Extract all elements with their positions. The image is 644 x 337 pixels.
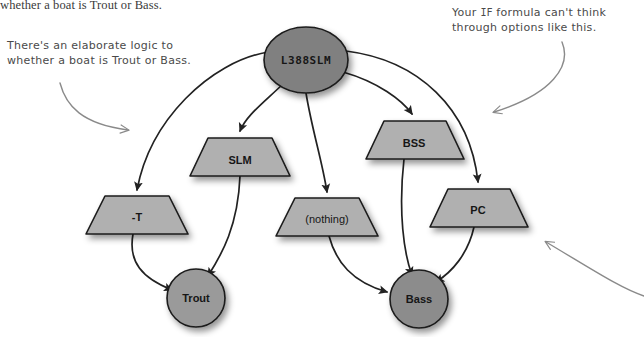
edge-root-to-nothing: [306, 93, 327, 192]
right-annotation-if-keyword: IF: [480, 7, 492, 18]
bottom-right-annotation-arrow: [546, 242, 644, 296]
right-annotation-prefix: Your: [452, 6, 480, 19]
edge-root-to-slm: [240, 84, 283, 131]
annotation-arrow-group: [60, 42, 644, 296]
edge-root-to-bss: [343, 72, 412, 114]
right-annotation-text: Your IF formula can't think through opti…: [452, 5, 606, 35]
left-annotation-line-2: whether a boat is Trout or Bass.: [7, 53, 191, 68]
edge-nothing-to-bass: [329, 236, 387, 292]
edge-slm-to-trout: [208, 176, 240, 276]
edge-bss-to-bass: [402, 159, 412, 275]
screenshot-canvas: whether a boat is Trout or Bass.: [0, 0, 644, 337]
node-trout-shape: [167, 269, 225, 327]
edge-root-to-pc: [346, 51, 478, 182]
right-annotation-line-1: Your IF formula can't think: [452, 5, 606, 20]
node-bss-shape: [366, 121, 464, 159]
left-annotation-line-1: There's an elaborate logic to: [7, 38, 191, 53]
node-nothing-shape: [276, 198, 378, 236]
right-annotation-suffix: formula can't think: [493, 6, 607, 19]
node-pc-shape: [430, 189, 528, 227]
node-group: [86, 27, 528, 328]
left-annotation-text: There's an elaborate logic to whether a …: [7, 38, 191, 68]
edge-pc-to-bass: [436, 227, 474, 282]
node-bass-shape: [390, 270, 448, 328]
node-root-shape: [264, 27, 348, 93]
node-minus-t-shape: [86, 196, 188, 234]
left-annotation-arrow: [60, 83, 128, 130]
node-slm-shape: [190, 138, 290, 176]
right-annotation-arrow: [494, 42, 564, 112]
right-annotation-line-2: through options like this.: [452, 20, 606, 35]
edge-minus-t-to-trout: [132, 234, 172, 290]
